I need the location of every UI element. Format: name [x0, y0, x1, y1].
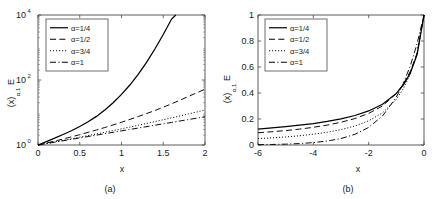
x-tick-label: 0: [421, 148, 426, 158]
subplot-a: 00.511.52100102104 α=1/4α=1/2α=3/4α=1 E …: [0, 0, 217, 199]
panel-a-caption: (a): [105, 184, 116, 194]
y-tick-label: 0.2: [241, 114, 254, 124]
panel-b-y-axis-label-argument: (x): [222, 93, 232, 104]
y-tick-label: 0.6: [241, 62, 254, 72]
legend-label: α=1: [290, 58, 303, 67]
panel-a-legend: α=1/4α=1/2α=3/4α=1: [46, 19, 108, 71]
y-tick-label: 10: [16, 75, 26, 85]
panel-b-y-axis-label-subscript: α,1: [231, 83, 237, 92]
legend-label: α=1/4: [290, 24, 309, 33]
panel-a-y-axis-label-subscript: α,1: [15, 87, 21, 96]
panel-b-y-axis-label: E: [222, 75, 232, 81]
legend-label: α=1/4: [71, 24, 90, 33]
subplot-b-svg: -6-4-2000.20.40.60.81 α=1/4α=1/2α=3/4α=1…: [218, 0, 435, 199]
x-tick-label: -6: [254, 148, 262, 158]
y-tick-label: 0.8: [241, 36, 254, 46]
x-tick-label: 0: [35, 148, 40, 158]
x-tick-label: 0.5: [73, 148, 86, 158]
x-tick-label: 1.5: [157, 148, 170, 158]
panel-b-caption: (b): [343, 184, 354, 194]
y-tick-label: 0: [249, 140, 254, 150]
y-tick-label: 10: [16, 140, 26, 150]
y-tick-label-exponent: 2: [28, 73, 31, 79]
legend-label: α=3/4: [290, 47, 309, 56]
legend-label: α=1/2: [71, 35, 90, 44]
panel-b-x-axis-label: x: [356, 164, 361, 174]
x-tick-label: -4: [309, 148, 317, 158]
panel-b-legend: α=1/4α=1/2α=3/4α=1: [265, 19, 327, 71]
figure-container: 00.511.52100102104 α=1/4α=1/2α=3/4α=1 E …: [0, 0, 435, 199]
panel-a-background: [0, 0, 217, 199]
y-tick-label: 0.4: [241, 88, 254, 98]
subplot-a-svg: 00.511.52100102104 α=1/4α=1/2α=3/4α=1 E …: [0, 0, 217, 199]
panel-a-y-axis-label: E: [6, 79, 16, 85]
x-tick-label: 2: [202, 148, 207, 158]
legend-label: α=3/4: [71, 47, 90, 56]
panel-a-x-axis-label: x: [120, 164, 125, 174]
y-tick-label-exponent: 0: [28, 138, 31, 144]
panel-a-y-axis-label-argument: (x): [6, 97, 16, 108]
legend-label: α=1: [71, 58, 84, 67]
x-tick-label: -2: [365, 148, 373, 158]
legend-label: α=1/2: [290, 35, 309, 44]
subplot-b: -6-4-2000.20.40.60.81 α=1/4α=1/2α=3/4α=1…: [218, 0, 435, 199]
x-tick-label: 1: [119, 148, 124, 158]
y-tick-label: 1: [249, 10, 254, 20]
y-tick-label: 10: [16, 10, 26, 20]
